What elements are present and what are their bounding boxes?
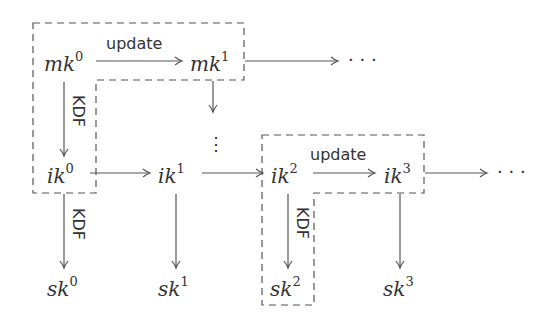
- label-update-top: update: [106, 34, 162, 53]
- ellipsis-vertical: ⋮: [207, 133, 225, 154]
- ellipsis-bottom-row: · · ·: [497, 161, 526, 182]
- node-sk3: sk3: [383, 274, 414, 301]
- node-sk2: sk2: [270, 274, 301, 301]
- key-derivation-diagram: mk0 mk1 update · · · ⋮ KDF ik0 ik1 ik2 i…: [0, 0, 549, 324]
- label-update-bottom: update: [310, 145, 366, 164]
- ellipsis-top-row: · · ·: [348, 49, 377, 70]
- label-kdf-right: KDF: [293, 207, 312, 239]
- node-ik0: ik0: [47, 161, 74, 188]
- node-ik2: ik2: [271, 161, 298, 188]
- node-sk0: sk0: [47, 274, 78, 301]
- node-ik3: ik3: [384, 161, 411, 188]
- label-kdf-mid: KDF: [69, 208, 88, 240]
- label-kdf-top: KDF: [69, 95, 88, 127]
- node-ik1: ik1: [158, 161, 185, 188]
- node-sk1: sk1: [158, 274, 189, 301]
- node-mk0: mk0: [44, 49, 83, 76]
- node-mk1: mk1: [190, 49, 229, 76]
